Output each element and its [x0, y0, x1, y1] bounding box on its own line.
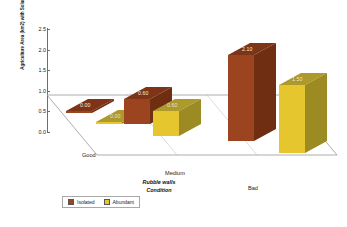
bar-value-label: 0.60 [138, 90, 149, 96]
bar-value-label: 2.10 [242, 46, 253, 52]
chart-legend: Isolated Abundant [62, 196, 140, 208]
chart-canvas: Agriculture Area (km2) with Solanum Occu… [0, 0, 347, 227]
legend-item-abundant[interactable]: Abundant [104, 199, 134, 205]
x-axis-title: Rubble walls Condition [119, 178, 199, 194]
x-category-medium: Medium [165, 170, 185, 176]
bar-value-label: 0.00 [110, 113, 121, 119]
bar-value-label: 1.50 [292, 76, 303, 82]
legend-swatch-isolated [68, 199, 74, 205]
x-category-bad: Bad [248, 185, 258, 191]
x-category-good: Good [82, 152, 96, 158]
legend-label-abundant: Abundant [113, 199, 134, 205]
legend-label-isolated: Isolated [77, 199, 95, 205]
bar-value-label: 0.00 [80, 102, 91, 108]
x-axis-title-line2: Condition [119, 186, 199, 194]
legend-item-isolated[interactable]: Isolated [68, 199, 95, 205]
x-axis-title-line1: Rubble walls [119, 178, 199, 186]
bar-value-label: 0.60 [167, 102, 178, 108]
legend-swatch-abundant [104, 199, 110, 205]
